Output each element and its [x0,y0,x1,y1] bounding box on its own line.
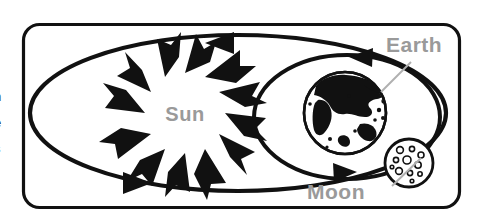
moon-label: Moon [307,180,365,203]
moon-body [385,139,433,187]
earth-label: Earth [386,33,442,56]
sun-label: Sun [165,103,204,125]
diagram-canvas: Sun [0,0,482,220]
diagram-figure: n e s [0,0,482,220]
earth-body [304,72,387,154]
